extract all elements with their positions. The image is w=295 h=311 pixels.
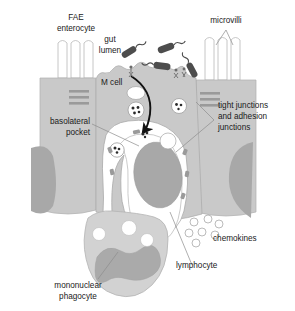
label-fae-line2: enterocyte xyxy=(57,24,96,33)
vesicle-empty-apical xyxy=(127,87,145,100)
vesicle-releasing xyxy=(160,133,176,149)
chemokine-dot-icon xyxy=(190,218,198,226)
phagocyte-vacuole xyxy=(93,228,106,241)
phagocyte-vacuole xyxy=(141,234,154,247)
label-gut-line1: gut xyxy=(104,35,116,44)
vesicle-loaded-right xyxy=(172,99,187,114)
chemokine-dot-icon xyxy=(185,229,193,237)
label-fae-line1: FAE xyxy=(68,13,84,22)
label-junctions-line3: junctions xyxy=(217,123,250,132)
microvilli-left-group xyxy=(58,41,93,79)
label-fae-enterocyte: FAE enterocyte xyxy=(57,13,96,33)
label-junctions-line2: and adhesion xyxy=(218,112,268,121)
junction-bar-icon xyxy=(200,98,220,101)
label-gut-line2: lumen xyxy=(99,46,122,55)
phagocyte-vacuole xyxy=(122,221,137,236)
microvillus-icon xyxy=(71,41,80,79)
label-junctions-line1: tight junctions xyxy=(218,101,268,110)
chemokine-dot-icon xyxy=(215,220,223,228)
label-lymphocyte: lymphocyte xyxy=(176,261,218,270)
label-phagocyte-line2: phagocyte xyxy=(59,292,97,301)
label-microvilli: microvilli xyxy=(210,16,242,25)
microvillus-icon xyxy=(58,41,67,79)
junction-bars-left xyxy=(69,90,89,105)
vesicle-loaded-left xyxy=(128,102,144,118)
label-pocket-line2: pocket xyxy=(66,128,91,137)
nucleus-left xyxy=(31,146,56,213)
label-junctions: tight junctions and adhesion junctions xyxy=(217,101,268,132)
chemokine-dot-icon xyxy=(192,239,200,247)
junction-bar-icon xyxy=(200,92,220,95)
label-m-cell: M cell xyxy=(101,78,123,87)
label-pocket-line1: basolateral xyxy=(50,117,90,126)
junction-bar-icon xyxy=(200,104,220,107)
junction-bar-icon xyxy=(69,96,89,99)
junction-bar-icon xyxy=(69,90,89,93)
label-gut-lumen: gut lumen xyxy=(99,35,122,55)
chemokine-dot-icon xyxy=(204,215,212,223)
figure-canvas: FAE enterocyte gut lumen microvilli M ce… xyxy=(0,0,295,311)
microvillus-icon xyxy=(218,38,227,81)
junction-bars-right xyxy=(200,92,220,107)
microvillus-icon xyxy=(205,38,214,81)
label-chemokines: chemokines xyxy=(213,234,257,243)
label-mononuclear-phagocyte: mononuclear phagocyte xyxy=(54,281,102,301)
rod-bacterium-icon xyxy=(121,39,148,59)
microvillus-icon xyxy=(84,41,93,79)
rod-bacterium-icon xyxy=(157,38,187,54)
m-cell-diagram: FAE enterocyte gut lumen microvilli M ce… xyxy=(0,0,295,311)
chemokine-dot-icon xyxy=(198,228,206,236)
microvilli-right-group xyxy=(205,38,240,81)
label-phagocyte-line1: mononuclear xyxy=(54,281,102,290)
junction-bar-icon xyxy=(69,102,89,105)
